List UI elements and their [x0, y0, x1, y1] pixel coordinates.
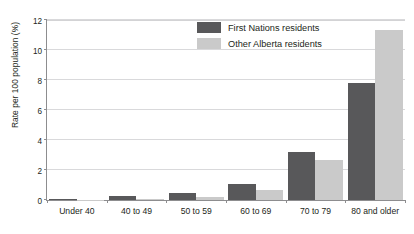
legend: First Nations residentsOther Alberta res… — [197, 22, 322, 49]
x-tick-label: 70 to 79 — [300, 206, 331, 216]
bar-group — [47, 20, 107, 200]
bar — [49, 199, 76, 201]
y-axis-title: Rate per 100 population (%) — [10, 0, 20, 155]
x-tick-mark — [226, 200, 227, 203]
x-tick-mark — [405, 200, 406, 203]
legend-swatch — [197, 22, 221, 33]
y-tick-label: 8 — [37, 76, 42, 85]
bar — [169, 193, 196, 200]
x-tick-mark — [107, 200, 108, 203]
x-tick-label: Under 40 — [59, 206, 94, 216]
y-tick-label: 12 — [33, 16, 42, 25]
x-tick-label: 80 and older — [351, 206, 399, 216]
y-tick-label: 2 — [37, 166, 42, 175]
bar — [256, 190, 283, 200]
y-tick-label: 0 — [37, 196, 42, 205]
bar — [136, 199, 163, 200]
x-tick-mark — [286, 200, 287, 203]
x-tick-mark — [166, 200, 167, 203]
y-tick-label: 6 — [37, 106, 42, 115]
legend-entry: First Nations residents — [197, 22, 322, 33]
x-tick-label: 50 to 59 — [181, 206, 212, 216]
legend-label: First Nations residents — [228, 23, 319, 33]
bar-group — [345, 20, 405, 200]
bar — [109, 196, 136, 200]
legend-label: Other Alberta residents — [228, 39, 322, 49]
bar-chart: Rate per 100 population (%) 024681012 Un… — [0, 0, 414, 234]
x-tick-label: 40 to 49 — [121, 206, 152, 216]
bar — [375, 30, 402, 200]
bar — [315, 160, 342, 200]
x-tick-mark — [345, 200, 346, 203]
legend-entry: Other Alberta residents — [197, 38, 322, 49]
y-tick-label: 10 — [33, 46, 42, 55]
bar — [348, 83, 375, 200]
x-tick-mark — [47, 200, 48, 203]
bar-group — [107, 20, 167, 200]
bar — [288, 152, 315, 200]
bar — [196, 197, 223, 200]
cropped-title-remnant — [120, 0, 320, 1]
x-tick-label: 60 to 69 — [240, 206, 271, 216]
y-tick-mark — [44, 19, 47, 20]
y-tick-label: 4 — [37, 136, 42, 145]
legend-swatch — [197, 38, 221, 49]
bar — [228, 184, 255, 200]
gridline — [47, 19, 405, 20]
